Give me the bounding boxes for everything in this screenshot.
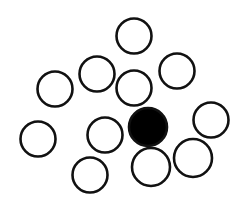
circle-diagram	[0, 0, 244, 207]
filled-circle	[129, 108, 167, 146]
